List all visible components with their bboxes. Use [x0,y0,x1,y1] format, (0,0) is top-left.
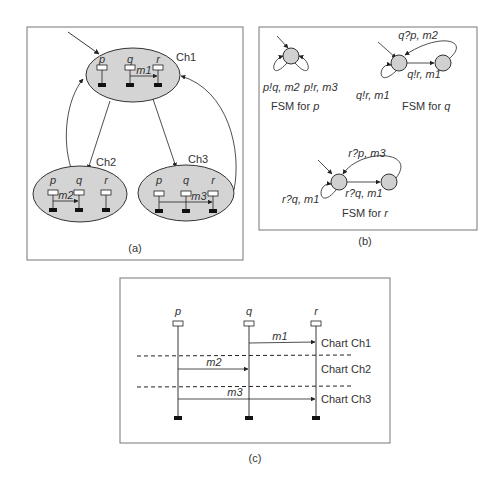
fsm-title: FSM for q [402,100,451,112]
lifeline-label: q [127,53,134,65]
edge-ch1-ch3 [153,99,176,167]
panel-a: p q r m1 Ch1 p q r [27,27,243,260]
chart-ch2-node: p q r m2 Ch2 [33,156,127,222]
panel-c: p q r m1 m2 m3 Chart Ch1 Chart Ch2 Chart… [120,278,390,464]
lifeline-label: p [49,174,56,186]
lifeline-label: p [174,305,181,317]
fsm-title: FSM for r [342,207,389,219]
message-m1 [249,342,315,343]
transition-label: r?q, m1 [345,187,382,199]
section-divider [137,386,352,387]
panel-b: p!q, m2 p!r, m3 FSM for p q?p, m2 q!r, m… [259,27,477,247]
transition-label: p!q, m2 [262,81,300,93]
caption-b: (b) [358,235,371,247]
lifeline-label: q [246,305,253,317]
fsm-p: p!q, m2 p!r, m3 FSM for p [262,36,339,112]
chart-name: Ch1 [176,51,196,63]
chart-label: Chart Ch1 [321,337,371,349]
transition-label: q?p, m2 [398,29,438,41]
message-label: m1 [136,64,151,76]
chart-ch1-node: p q r m1 Ch1 [86,48,196,102]
message-label: m2 [58,189,73,201]
caption-c: (c) [249,452,262,464]
transition-label: q!r, m1 [407,68,441,80]
fsm-q: q?p, m2 q!r, m1 q!r, m1 FSM for q [356,29,456,112]
message-label: m3 [191,190,207,202]
transition-label: r?p, m3 [348,147,386,159]
caption-a: (a) [128,242,141,254]
lifeline-label: r [314,305,319,317]
lifeline-label: p [98,53,105,65]
section-divider [137,355,352,356]
lifeline-label: q [76,174,83,186]
initial-arrow [68,32,99,54]
chart-ch3-node: p q r m3 Ch3 [138,153,234,221]
diagram-canvas: p q r m1 Ch1 p q r [0,0,495,482]
transition-label: q!r, m1 [356,89,390,101]
message-label: m1 [272,330,287,342]
transition-label: p!r, m3 [303,81,339,93]
chart-label: Chart Ch2 [321,363,371,375]
fsm-title: FSM for p [271,100,319,112]
message-label: m2 [206,356,221,368]
chart-name: Ch2 [96,156,116,168]
lifeline-label: p [155,174,162,186]
chart-name: Ch3 [188,153,208,165]
lifeline-label: q [183,174,190,186]
fsm-r: r?p, m3 r?q, m1 r?q, m1 FSM for r [282,147,401,219]
transition-label: r?q, m1 [282,193,319,205]
chart-label: Chart Ch3 [321,393,371,405]
edge-ch2-ch1 [66,79,83,168]
message-label: m3 [227,386,243,398]
